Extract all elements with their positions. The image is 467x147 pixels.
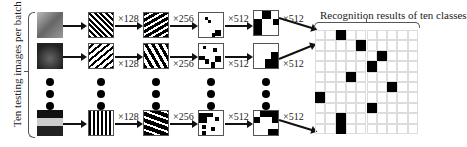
result-cell — [408, 113, 418, 123]
arrow — [225, 56, 249, 58]
result-cell — [356, 82, 366, 92]
result-cell — [356, 103, 366, 113]
result-cell — [408, 92, 418, 102]
feature-map-256-row-2 — [143, 43, 169, 69]
arrow — [63, 123, 83, 125]
result-cell — [397, 103, 407, 113]
arrow — [225, 25, 249, 27]
result-cell — [367, 30, 377, 40]
result-cell — [315, 72, 325, 82]
result-cell — [346, 103, 356, 113]
feature-map-128-row-1 — [88, 12, 114, 38]
result-cell — [336, 82, 346, 92]
top-brace — [314, 22, 420, 28]
result-cell-active — [387, 82, 397, 92]
result-cell — [336, 92, 346, 102]
result-cell — [387, 30, 397, 40]
result-cell — [336, 103, 346, 113]
result-cell — [315, 30, 325, 40]
result-cell — [315, 82, 325, 92]
result-cell-active — [336, 113, 346, 123]
result-cell — [408, 61, 418, 71]
ellipsis-dot — [152, 90, 160, 98]
result-cell — [367, 82, 377, 92]
arrow — [115, 123, 139, 125]
result-cell — [325, 92, 335, 102]
result-cell — [367, 92, 377, 102]
result-cell — [346, 40, 356, 50]
result-cell — [315, 124, 325, 134]
result-cell — [367, 51, 377, 61]
feature-map-512a-row-1 — [198, 12, 224, 38]
result-cell — [397, 51, 407, 61]
result-cell — [325, 51, 335, 61]
ellipsis-dot — [152, 78, 160, 86]
input-image-row-1 — [37, 12, 63, 38]
feature-map-256-row-3 — [143, 110, 169, 136]
input-image-row-2 — [37, 43, 63, 69]
result-cell — [325, 61, 335, 71]
result-cell — [387, 51, 397, 61]
ellipsis-dot — [152, 102, 160, 110]
result-cell — [356, 92, 366, 102]
result-cell — [367, 113, 377, 123]
ellipsis-dot — [262, 78, 270, 86]
arrow — [115, 56, 139, 58]
result-cell — [315, 103, 325, 113]
result-cell — [336, 40, 346, 50]
result-cell — [377, 30, 387, 40]
result-cell — [387, 113, 397, 123]
result-cell — [408, 51, 418, 61]
result-cell — [397, 72, 407, 82]
arrow — [63, 25, 83, 27]
result-cell — [325, 103, 335, 113]
input-image-row-3 — [37, 110, 63, 136]
arrow — [170, 56, 194, 58]
result-cell — [377, 113, 387, 123]
ellipsis-dot — [207, 102, 215, 110]
result-cell-active — [346, 72, 356, 82]
result-cell — [315, 61, 325, 71]
result-cell — [387, 124, 397, 134]
mult-128-row-2: ×128 — [118, 58, 139, 69]
result-cell — [397, 92, 407, 102]
result-cell — [356, 61, 366, 71]
result-cell — [367, 124, 377, 134]
result-cell — [356, 72, 366, 82]
feature-map-512b-row-1 — [253, 10, 279, 36]
result-cell — [408, 124, 418, 134]
result-cell — [408, 30, 418, 40]
result-cell — [408, 103, 418, 113]
ellipsis-dot — [46, 90, 54, 98]
ellipsis-dot — [46, 78, 54, 86]
result-cell-active — [377, 51, 387, 61]
result-cell — [356, 124, 366, 134]
result-cell — [346, 30, 356, 40]
feature-map-256-row-1 — [143, 12, 169, 38]
arrow — [63, 56, 83, 58]
left-brace — [28, 12, 35, 138]
result-cell — [377, 61, 387, 71]
result-cell — [315, 113, 325, 123]
result-cell — [346, 82, 356, 92]
result-cell — [336, 61, 346, 71]
ellipsis-dot — [97, 78, 105, 86]
result-cell — [367, 72, 377, 82]
result-cell — [356, 30, 366, 40]
mult-256-row-2: ×256 — [173, 58, 194, 69]
result-cell — [377, 72, 387, 82]
result-cell — [387, 61, 397, 71]
ellipsis-dot — [97, 90, 105, 98]
result-cell-active — [367, 103, 377, 113]
result-cell-active — [356, 40, 366, 50]
feature-map-512a-row-3 — [198, 110, 224, 136]
mult-512b-row-2: ×512 — [283, 58, 304, 69]
result-cell — [315, 51, 325, 61]
result-cell — [325, 82, 335, 92]
ellipsis-dot — [207, 90, 215, 98]
result-cell — [377, 103, 387, 113]
arrow — [225, 123, 249, 125]
result-cell — [397, 61, 407, 71]
ellipsis-dot — [97, 102, 105, 110]
result-cell — [325, 40, 335, 50]
